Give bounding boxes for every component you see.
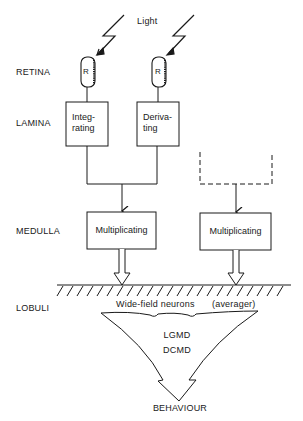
- derivating-line1: Deriva-: [143, 112, 172, 123]
- receptor-left-label: R: [83, 67, 89, 76]
- hollow-arrow-right: [228, 250, 244, 285]
- lightning-right-icon: [167, 15, 194, 55]
- lightning-left-icon: [97, 15, 124, 55]
- stage-label-medulla: MEDULLA: [16, 226, 60, 236]
- averager-label: (averager): [212, 299, 256, 309]
- combining-connector: [87, 146, 157, 184]
- stimulus-label: Light: [137, 16, 158, 26]
- hollow-arrow-left: [114, 249, 130, 285]
- derivating-line2: ting: [143, 123, 172, 134]
- averager-brace: [101, 311, 258, 316]
- stage-label-lamina: LAMINA: [16, 118, 51, 128]
- behaviour-label: BEHAVIOUR: [140, 403, 220, 413]
- lgmd-label: LGMD: [152, 330, 202, 340]
- wide-field-neurons-label: Wide-field neurons: [116, 299, 195, 309]
- diagram-canvas: [0, 0, 303, 421]
- stage-label-retina: RETINA: [16, 67, 50, 77]
- dashed-placeholder-box: [200, 152, 272, 184]
- dcmd-label: DCMD: [152, 345, 202, 355]
- integrating-label: Integ- rating: [72, 112, 95, 134]
- funnel-converging-arrow: [101, 311, 258, 401]
- lobuli-boundary-hatched: [57, 285, 291, 296]
- derivating-label: Deriva- ting: [143, 112, 172, 134]
- multiplicating-right-label: Multiplicating: [200, 226, 271, 237]
- integrating-line2: rating: [72, 123, 95, 134]
- integrating-line1: Integ-: [72, 112, 95, 123]
- receptor-right-label: R: [155, 67, 161, 76]
- multiplicating-left-label: Multiplicating: [87, 225, 156, 236]
- stage-label-lobuli: LOBULI: [16, 303, 49, 313]
